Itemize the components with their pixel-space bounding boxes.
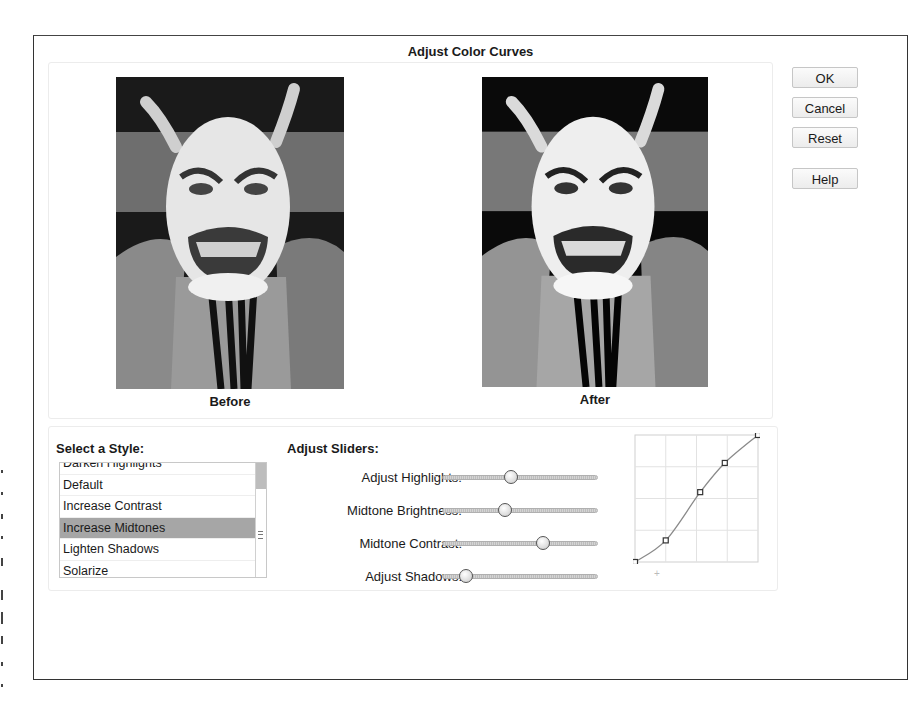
before-caption: Before	[170, 394, 290, 409]
cancel-button[interactable]: Cancel	[792, 97, 858, 118]
preview-panel: Before After	[48, 62, 773, 419]
reset-button[interactable]: Reset	[792, 127, 858, 148]
slider-adjust-shadows: Adjust Shadows: - +	[284, 567, 674, 587]
minus-icon: -	[434, 535, 438, 547]
style-list-scrollbar[interactable]	[255, 463, 266, 577]
after-image	[482, 77, 708, 387]
style-option-lighten-shadows[interactable]: Lighten Shadows	[60, 539, 266, 561]
style-option-darken-highlights[interactable]: Darken Highlights	[60, 462, 266, 475]
curve-graph[interactable]	[633, 433, 760, 564]
style-option-increase-contrast[interactable]: Increase Contrast	[60, 496, 266, 518]
slider-track[interactable]	[442, 475, 598, 480]
minus-icon: -	[434, 568, 438, 580]
style-option-solarize[interactable]: Solarize	[60, 561, 266, 579]
minus-icon: -	[434, 469, 438, 481]
dialog-title: Adjust Color Curves	[34, 44, 907, 59]
controls-panel: Select a Style: Darken Highlights Defaul…	[48, 426, 778, 591]
slider-midtone-brightness: Midtone Brightness: - +	[284, 501, 674, 521]
curve-graph-icon[interactable]	[633, 433, 760, 564]
style-option-default[interactable]: Default	[60, 475, 266, 497]
mask-photo-icon	[116, 77, 344, 389]
adjust-sliders-label: Adjust Sliders:	[287, 441, 379, 456]
mask-photo-icon	[482, 77, 708, 387]
plus-icon: +	[654, 568, 660, 579]
slider-thumb[interactable]	[504, 470, 518, 484]
slider-adjust-highlights: Adjust Highlights: - +	[284, 468, 674, 488]
adjust-color-curves-dialog: Adjust Color Curves Befo	[33, 35, 908, 680]
help-button[interactable]: Help	[792, 168, 858, 189]
slider-thumb[interactable]	[498, 503, 512, 517]
before-image	[116, 77, 344, 389]
scrollbar-thumb[interactable]	[256, 463, 266, 489]
slider-track[interactable]	[442, 508, 598, 513]
ok-button[interactable]: OK	[792, 67, 858, 88]
minus-icon: -	[434, 502, 438, 514]
page-edge-marks	[0, 470, 4, 726]
slider-track[interactable]	[442, 541, 598, 546]
slider-track[interactable]	[442, 574, 598, 579]
style-option-increase-midtones[interactable]: Increase Midtones	[60, 518, 266, 540]
after-caption: After	[535, 392, 655, 407]
select-style-label: Select a Style:	[56, 441, 144, 456]
slider-midtone-contrast: Midtone Contrast: - +	[284, 534, 674, 554]
slider-thumb[interactable]	[459, 569, 473, 583]
scrollbar-grip-icon	[258, 531, 263, 539]
slider-thumb[interactable]	[536, 536, 550, 550]
style-listbox[interactable]: Darken Highlights Default Increase Contr…	[59, 462, 267, 578]
